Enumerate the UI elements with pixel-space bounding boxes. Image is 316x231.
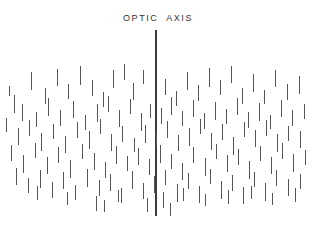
crystallite-segment	[113, 70, 114, 88]
crystallite-segment	[295, 188, 296, 202]
crystallite-segment	[221, 181, 222, 199]
crystallite-segment	[264, 90, 265, 104]
crystallite-segment	[277, 134, 278, 152]
crystallite-segment	[58, 147, 59, 163]
crystallite-segment	[165, 79, 166, 95]
crystallite-segment	[300, 131, 301, 148]
crystallite-segment	[281, 100, 282, 117]
crystallite-segment	[205, 194, 206, 206]
crystallite-segment	[282, 143, 283, 159]
crystallite-segment	[48, 98, 49, 116]
crystallite-segment	[96, 196, 97, 211]
crystallite-segment	[189, 128, 190, 146]
crystallite-segment	[254, 172, 255, 187]
crystallite-segment	[57, 69, 58, 86]
crystallite-segment	[161, 108, 162, 124]
crystallite-segment	[11, 145, 12, 161]
crystallite-segment	[145, 125, 146, 143]
crystallite-segment	[165, 170, 166, 185]
crystallite-segment	[37, 186, 38, 200]
crystallite-segment	[220, 80, 221, 95]
crystallite-segment	[209, 68, 210, 87]
crystallite-segment	[210, 169, 211, 184]
crystallite-segment	[199, 186, 200, 203]
crystallite-segment	[35, 143, 36, 158]
crystallite-segment	[193, 100, 194, 117]
crystallite-segment	[124, 64, 125, 80]
crystallite-segment	[304, 104, 305, 119]
crystallite-segment	[156, 132, 157, 147]
crystallite-segment	[104, 200, 105, 212]
crystallite-segment	[227, 155, 228, 172]
crystallite-segment	[293, 154, 294, 172]
crystallite-segment	[92, 80, 93, 96]
crystallite-segment	[85, 115, 86, 130]
crystallite-segment	[259, 103, 260, 121]
crystallite-segment	[193, 147, 194, 163]
crystallite-segment	[276, 170, 277, 186]
crystallite-segment	[45, 88, 46, 104]
crystallite-segment	[68, 84, 69, 99]
crystallite-segment	[97, 104, 98, 122]
crystallite-segment	[149, 159, 150, 175]
crystallite-segment	[237, 98, 238, 115]
crystallite-segment	[36, 112, 37, 127]
crystallite-segment	[77, 122, 78, 138]
crystallite-segment	[265, 183, 266, 201]
crystallite-segment	[110, 174, 111, 191]
crystallite-segment	[122, 126, 123, 142]
crystallite-segment	[143, 70, 144, 84]
crystallite-segment	[183, 188, 184, 201]
crystallite-segment	[87, 169, 88, 187]
crystallite-segment	[9, 86, 10, 96]
crystallite-segment	[163, 192, 164, 208]
crystallite-segment	[177, 184, 178, 202]
crystallite-segment	[288, 179, 289, 196]
crystallite-segment	[6, 118, 7, 132]
crystallite-segment	[134, 138, 135, 152]
crystallite-segment	[178, 135, 179, 151]
crystallite-segment	[118, 190, 119, 202]
crystallite-segment	[272, 193, 273, 205]
crystallite-segment	[249, 161, 250, 179]
crystallite-segment	[73, 101, 74, 118]
crystallite-segment	[141, 113, 142, 131]
crystallite-segment	[47, 157, 48, 174]
crystallite-segment	[266, 120, 267, 136]
crystallite-segment	[22, 104, 23, 121]
crystallite-segment	[28, 178, 29, 193]
crystallite-segment	[60, 110, 61, 126]
crystallite-segment	[29, 120, 30, 136]
crystallite-segment	[171, 97, 172, 115]
crystallite-segment	[211, 133, 212, 150]
crystallite-segment	[299, 76, 300, 94]
crystallite-segment	[116, 146, 117, 164]
crystallite-segment	[133, 83, 134, 100]
crystallite-segment	[216, 144, 217, 159]
crystallite-segment	[154, 176, 155, 193]
crystallite-segment	[31, 72, 32, 90]
crystallite-segment	[147, 198, 148, 212]
crystallite-segment	[18, 128, 19, 145]
crystallite-segment	[292, 110, 293, 126]
crystallite-segment	[103, 92, 104, 107]
crystallite-segment	[233, 137, 234, 155]
crystallite-segment	[271, 157, 272, 174]
crystallite-segment	[287, 84, 288, 100]
crystallite-segment	[67, 192, 68, 205]
crystallite-segment	[200, 119, 201, 134]
crystallite-segment	[228, 190, 229, 204]
crystallite-segment-field	[0, 0, 316, 231]
crystallite-segment	[244, 122, 245, 137]
crystallite-segment	[89, 131, 90, 149]
crystallite-segment	[23, 155, 24, 173]
crystallite-segment	[41, 133, 42, 151]
crystallite-segment	[226, 109, 227, 124]
crystallite-segment	[94, 153, 95, 170]
crystallite-segment	[82, 144, 83, 159]
crystallite-segment	[105, 162, 106, 178]
crystallite-segment	[275, 70, 276, 87]
crystallite-segment	[255, 130, 256, 147]
crystallite-segment	[75, 185, 76, 200]
crystallite-segment	[253, 74, 254, 92]
